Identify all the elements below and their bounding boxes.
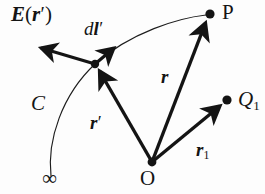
label-vector-r-prime: r′ xyxy=(90,113,102,132)
label-line-element: dl′ xyxy=(84,19,103,38)
point-marker-p xyxy=(205,9,214,18)
label-point-q1: Q1 xyxy=(238,89,260,112)
point-marker-source xyxy=(91,60,99,68)
label-vector-r1: r1 xyxy=(196,140,209,162)
curve-c-lower-segment xyxy=(50,64,95,176)
point-marker-q1 xyxy=(222,95,231,104)
label-infinity: ∞ xyxy=(42,168,57,189)
label-point-p: P xyxy=(222,2,234,23)
vector-diagram-figure: E(r′) dl′ P r Q1 C r′ r1 O ∞ xyxy=(0,0,265,194)
label-point-o: O xyxy=(140,168,155,189)
vector-r-prime xyxy=(100,71,153,162)
label-curve-c: C xyxy=(31,93,45,114)
label-vector-r: r xyxy=(161,67,168,86)
curve-c-upper-segment xyxy=(95,15,206,64)
label-electric-field: E(r′) xyxy=(11,4,52,25)
vector-e-field xyxy=(41,48,95,64)
